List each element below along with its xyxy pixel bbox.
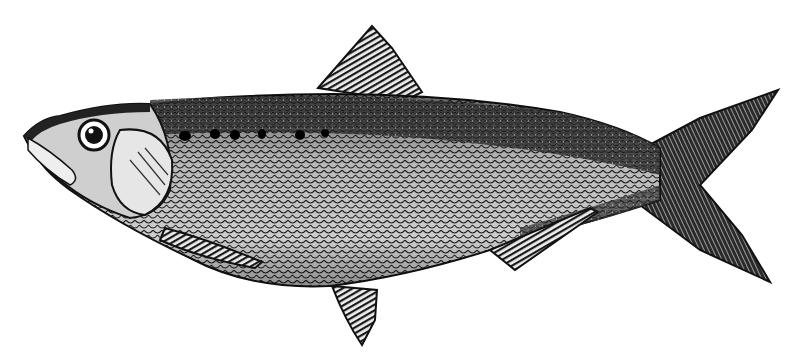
pelvic-fin xyxy=(332,286,377,345)
dorsal-fin xyxy=(318,26,422,98)
eye xyxy=(79,120,109,150)
fish-engraving xyxy=(0,0,795,361)
